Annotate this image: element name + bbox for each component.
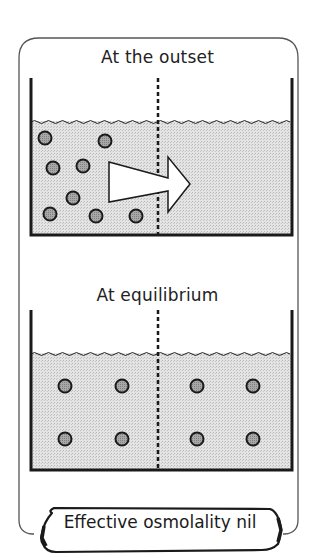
panel-title-equilibrium: At equilibrium (0, 285, 315, 305)
osmosis-diagram: At the outset At equilibrium Effective o… (0, 0, 315, 558)
water-right (158, 353, 291, 469)
footer-label: Effective osmolality nil (40, 512, 280, 532)
tank-outset (31, 78, 292, 235)
tank-equilibrium (31, 310, 292, 470)
panel-title-outset: At the outset (0, 47, 315, 67)
water-left (31, 353, 158, 469)
